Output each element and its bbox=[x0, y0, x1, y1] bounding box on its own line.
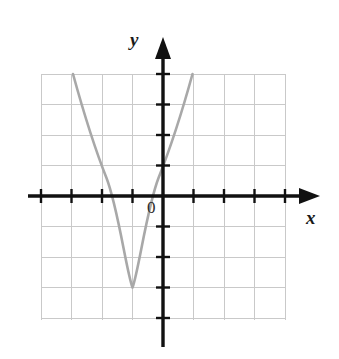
y-axis-label: y bbox=[130, 30, 138, 49]
x-axis bbox=[28, 188, 320, 204]
y-axis bbox=[155, 37, 171, 347]
x-axis-label: x bbox=[306, 208, 316, 227]
origin-label: 0 bbox=[147, 199, 156, 216]
coordinate-plane bbox=[0, 0, 339, 359]
graph-figure: y x 0 bbox=[0, 0, 339, 359]
